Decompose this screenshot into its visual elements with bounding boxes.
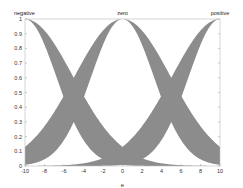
label-zero: zero <box>117 10 128 16</box>
y-tick-label: 0.5 <box>14 90 22 96</box>
y-tick-label: 0.4 <box>14 104 22 110</box>
y-tick-label: 0.8 <box>14 45 22 51</box>
y-tick-label: 0.6 <box>14 75 22 81</box>
x-tick-label: -8 <box>42 168 47 174</box>
x-tick-label: -6 <box>62 168 67 174</box>
footprint-of-uncertainty-areas <box>25 19 220 166</box>
x-tick-label: 2 <box>140 168 143 174</box>
fou-zero <box>25 19 220 165</box>
y-tick-label: 0.3 <box>14 119 22 125</box>
x-axis-ticks: -10-8-6-4-20246810 <box>21 164 223 174</box>
membership-function-chart: 00.10.20.30.40.50.60.70.80.91 -10-8-6-4-… <box>0 0 243 188</box>
y-tick-label: 0.7 <box>14 60 22 66</box>
label-positive: positive <box>211 10 230 16</box>
x-tick-label: 10 <box>217 168 223 174</box>
label-negative: negative <box>14 10 35 16</box>
x-tick-label: 8 <box>199 168 202 174</box>
x-tick-label: 6 <box>179 168 182 174</box>
x-axis-label: e <box>121 182 125 188</box>
x-tick-label: 0 <box>121 168 124 174</box>
x-tick-label: 4 <box>160 168 163 174</box>
y-tick-label: 0.2 <box>14 134 22 140</box>
x-tick-label: -2 <box>101 168 106 174</box>
y-tick-label: 0.9 <box>14 31 22 37</box>
y-tick-label: 0.1 <box>14 148 22 154</box>
y-tick-label: 1 <box>19 16 22 22</box>
x-tick-label: -4 <box>81 168 86 174</box>
x-tick-label: -10 <box>21 168 29 174</box>
